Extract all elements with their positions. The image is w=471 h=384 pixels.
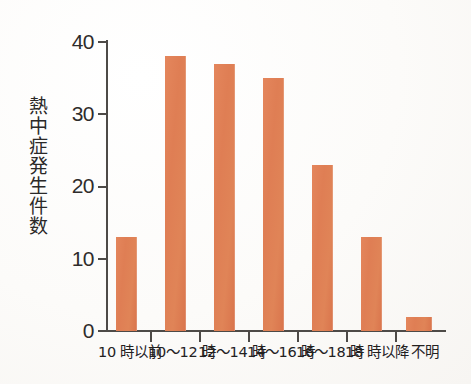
bar-10-12-ji — [165, 56, 186, 331]
x-label-12-14-ji: 12〜14 時 — [198, 340, 252, 361]
bar-fumei — [406, 317, 432, 332]
bar-10-ji-izen — [116, 237, 137, 331]
bar-18-ji-ikou — [361, 237, 382, 331]
x-axis-category-labels: 10 時以前 10〜12 時 12〜14 時 14〜16 時 16〜18 時 1… — [0, 340, 471, 370]
bar-16-18-ji — [312, 165, 333, 331]
bar-12-14-ji — [214, 64, 235, 331]
x-label-fumei: 不明 — [400, 340, 450, 361]
x-label-10-ji-izen: 10 時以前 — [98, 340, 152, 361]
y-tick-label-30: 30 — [50, 102, 94, 126]
y-tick-label-20: 20 — [50, 174, 94, 198]
plot-area — [107, 42, 437, 331]
bar-14-16-ji — [263, 78, 284, 331]
x-label-10-12-ji: 10〜12 時 — [148, 340, 202, 361]
x-label-16-18-ji: 16〜18 時 — [296, 340, 350, 361]
x-label-18-ji-ikou: 18 時以降 — [345, 340, 401, 361]
y-tick-label-40: 40 — [50, 30, 94, 54]
bar-chart-figure: 熱中症発生件数 40 30 20 10 0 10 時以前 10〜12 時 12〜… — [0, 0, 471, 384]
x-label-14-16-ji: 14〜16 時 — [247, 340, 301, 361]
y-tick-label-10: 10 — [50, 247, 94, 271]
y-axis-tick-labels: 40 30 20 10 0 — [44, 0, 94, 384]
